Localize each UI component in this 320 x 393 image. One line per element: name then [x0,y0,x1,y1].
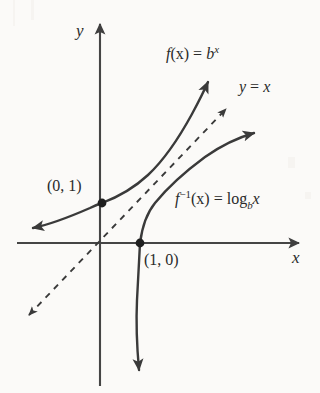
exponential-label-exponent: x [214,43,219,55]
exponential-label-base: b [206,45,214,62]
x-axis-label: x [292,249,300,266]
logarithm-label-arg: (x) = [191,190,227,207]
logarithm-label-log: log [227,190,247,207]
exponential-function-label: f(x) = bx [166,44,219,62]
identity-label-x: x [263,78,270,95]
point-marker-1-0 [136,239,145,248]
logarithm-function-label: f−1(x) = logbx [175,189,260,210]
logarithm-label-operand: x [253,190,260,207]
graph-plot [0,0,320,393]
point-marker-0-1 [98,199,107,208]
point-label-1-0: (1, 0) [144,252,179,268]
identity-line [29,109,226,315]
y-axis-label: y [76,22,84,39]
figure-canvas: y x f(x) = bx y = x f−1(x) = logbx (0, 1… [0,0,320,393]
identity-line-label: y = x [239,79,270,95]
identity-label-eq: = [246,78,263,95]
logarithm-label-inverse-exponent: −1 [179,188,191,200]
exponential-label-arg: (x) = [170,45,206,62]
point-label-0-1: (0, 1) [47,178,82,194]
